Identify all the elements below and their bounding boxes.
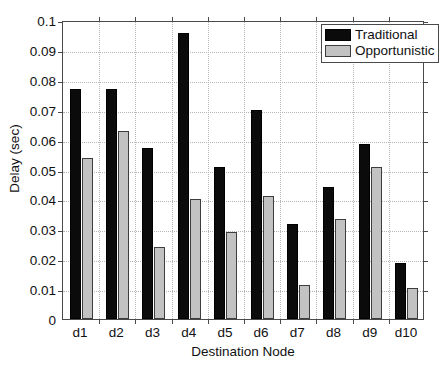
- legend-swatch-opportunistic: [325, 45, 351, 57]
- bar-opportunistic: [407, 288, 418, 319]
- bar-traditional: [251, 110, 262, 319]
- bar-group: [359, 22, 382, 319]
- y-tick-label: 0.07: [30, 103, 56, 118]
- y-tick-label: 0.02: [30, 253, 56, 268]
- figure-canvas: 00.010.020.030.040.050.060.070.080.090.1…: [0, 0, 439, 365]
- legend-item-traditional: Traditional: [325, 27, 435, 43]
- x-tick-mark: [280, 319, 281, 324]
- x-tick-label: d2: [109, 325, 124, 340]
- bar-opportunistic: [299, 285, 310, 319]
- y-tick-label: 0.09: [30, 43, 56, 58]
- x-tick-mark: [389, 319, 390, 324]
- x-axis-tick-labels: d1d2d3d4d5d6d7d8d9d10: [62, 325, 424, 345]
- y-tick-mark: [423, 201, 428, 202]
- y-tick-label: 0.08: [30, 73, 56, 88]
- bar-traditional: [395, 263, 406, 319]
- x-tick-label: d10: [395, 325, 418, 340]
- bar-traditional: [70, 89, 81, 319]
- bar-group: [142, 22, 165, 319]
- legend-swatch-traditional: [325, 29, 351, 41]
- bars-layer: [63, 22, 423, 319]
- bar-opportunistic: [263, 196, 274, 319]
- x-axis-title: Destination Node: [62, 344, 424, 359]
- y-tick-label: 0.03: [30, 223, 56, 238]
- y-tick-mark: [423, 142, 428, 143]
- y-tick-label: 0.01: [30, 283, 56, 298]
- x-tick-label: d4: [181, 325, 196, 340]
- x-tick-label: d1: [73, 325, 88, 340]
- x-tick-label: d6: [254, 325, 269, 340]
- bar-group: [251, 22, 274, 319]
- x-tick-mark: [172, 319, 173, 324]
- bar-traditional: [287, 224, 298, 319]
- y-tick-mark: [423, 231, 428, 232]
- y-tick-label: 0: [48, 313, 56, 328]
- y-tick-label: 0.06: [30, 133, 56, 148]
- chart-legend: Traditional Opportunistic: [321, 24, 439, 63]
- x-tick-label: d8: [326, 325, 341, 340]
- y-tick-label: 0.1: [37, 14, 56, 29]
- bar-group: [70, 22, 93, 319]
- x-tick-mark: [316, 319, 317, 324]
- bar-group: [106, 22, 129, 319]
- bar-group: [395, 22, 418, 319]
- x-tick-mark: [99, 319, 100, 324]
- x-tick-label: d7: [290, 325, 305, 340]
- bar-traditional: [359, 144, 370, 319]
- x-tick-mark: [244, 319, 245, 324]
- bar-opportunistic: [335, 219, 346, 319]
- bar-traditional: [142, 148, 153, 319]
- y-tick-label: 0.04: [30, 193, 56, 208]
- bar-opportunistic: [154, 247, 165, 319]
- legend-label-traditional: Traditional: [355, 28, 418, 42]
- plot-area: [62, 21, 424, 320]
- y-tick-mark: [423, 261, 428, 262]
- y-axis-title: Delay (sec): [7, 99, 22, 219]
- x-tick-mark: [353, 319, 354, 324]
- bar-opportunistic: [226, 232, 237, 319]
- y-tick-mark: [423, 22, 428, 23]
- x-tick-label: d9: [362, 325, 377, 340]
- y-tick-mark: [423, 82, 428, 83]
- x-tick-mark: [208, 319, 209, 324]
- legend-item-opportunistic: Opportunistic: [325, 43, 435, 59]
- x-tick-label: d5: [217, 325, 232, 340]
- bar-traditional: [106, 89, 117, 319]
- bar-group: [323, 22, 346, 319]
- bar-opportunistic: [118, 131, 129, 319]
- bar-traditional: [178, 33, 189, 319]
- legend-label-opportunistic: Opportunistic: [355, 44, 435, 58]
- y-tick-mark: [423, 172, 428, 173]
- bar-traditional: [323, 187, 334, 319]
- bar-group: [178, 22, 201, 319]
- x-tick-mark: [135, 319, 136, 324]
- bar-opportunistic: [371, 167, 382, 319]
- y-tick-label: 0.05: [30, 163, 56, 178]
- bar-opportunistic: [190, 199, 201, 319]
- y-tick-mark: [423, 291, 428, 292]
- bar-opportunistic: [82, 158, 93, 319]
- x-tick-label: d3: [145, 325, 160, 340]
- bar-traditional: [214, 167, 225, 319]
- bar-group: [287, 22, 310, 319]
- y-tick-mark: [423, 112, 428, 113]
- bar-group: [214, 22, 237, 319]
